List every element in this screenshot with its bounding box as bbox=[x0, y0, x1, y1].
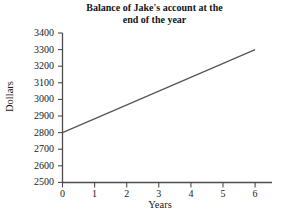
y-axis-label: Dollars bbox=[4, 74, 15, 120]
x-tick-label-0: 0 bbox=[56, 188, 70, 199]
data-series-line bbox=[63, 50, 256, 133]
x-tick-label-6: 6 bbox=[248, 188, 262, 199]
x-tick-label-4: 4 bbox=[184, 188, 198, 199]
x-tick-label-2: 2 bbox=[120, 188, 134, 199]
y-tick-label-2800: 2800 bbox=[20, 127, 54, 138]
y-tick-label-3100: 3100 bbox=[20, 77, 54, 88]
x-tick-label-1: 1 bbox=[88, 188, 102, 199]
y-tick-label-2700: 2700 bbox=[20, 143, 54, 154]
y-axis-ticks bbox=[58, 33, 63, 182]
x-tick-label-5: 5 bbox=[216, 188, 230, 199]
y-tick-label-3400: 3400 bbox=[20, 27, 54, 38]
y-tick-label-3200: 3200 bbox=[20, 60, 54, 71]
y-tick-label-3000: 3000 bbox=[20, 93, 54, 104]
y-tick-label-2900: 2900 bbox=[20, 110, 54, 121]
x-tick-label-3: 3 bbox=[152, 188, 166, 199]
x-axis-label: Years bbox=[120, 199, 200, 210]
y-tick-label-2600: 2600 bbox=[20, 160, 54, 171]
y-tick-label-3300: 3300 bbox=[20, 44, 54, 55]
y-tick-label-2500: 2500 bbox=[20, 176, 54, 187]
chart-figure: Balance of Jake's account at the end of … bbox=[0, 0, 281, 222]
